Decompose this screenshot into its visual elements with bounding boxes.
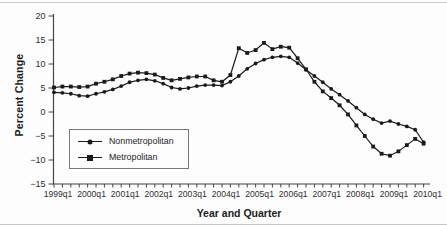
legend-label: Metropolitan [109, 152, 157, 162]
x-tick-label: 2010q1 [413, 189, 442, 199]
data-point-metropolitan [338, 103, 342, 107]
data-point-metropolitan [111, 77, 115, 81]
data-point-nonmetropolitan [145, 77, 149, 81]
data-point-nonmetropolitan [405, 125, 409, 129]
x-tick-label: 2003q1 [178, 189, 207, 199]
data-point-nonmetropolitan [388, 119, 392, 123]
data-point-metropolitan [128, 72, 132, 76]
data-point-nonmetropolitan [371, 117, 375, 121]
data-point-nonmetropolitan [296, 61, 300, 65]
x-tick-label: 1999q1 [44, 189, 73, 199]
circle-marker-icon [88, 139, 93, 144]
data-point-metropolitan [321, 89, 325, 93]
data-point-metropolitan [313, 80, 317, 84]
data-point-metropolitan [304, 67, 308, 71]
line-chart-figure: 20151050−5−10−151999q12000q12001q12002q1… [0, 0, 447, 226]
data-point-metropolitan [346, 113, 350, 117]
y-axis-title: Percent Change [13, 45, 25, 145]
legend-label: Nonmetropolitan [109, 136, 174, 146]
data-point-metropolitan [195, 75, 199, 79]
data-point-metropolitan [170, 78, 174, 82]
data-point-metropolitan [245, 51, 249, 55]
data-point-metropolitan [363, 134, 367, 138]
data-point-nonmetropolitan [61, 91, 65, 95]
data-point-metropolitan [203, 75, 207, 79]
data-point-nonmetropolitan [229, 80, 233, 84]
data-point-metropolitan [119, 74, 123, 78]
data-point-metropolitan [86, 85, 90, 89]
y-tick-label: −15 [30, 179, 45, 189]
data-point-nonmetropolitan [77, 94, 81, 98]
data-point-metropolitan [355, 124, 359, 128]
data-point-nonmetropolitan [220, 84, 224, 88]
data-point-nonmetropolitan [363, 113, 367, 117]
data-point-nonmetropolitan [195, 84, 199, 88]
data-point-metropolitan [178, 77, 182, 81]
data-point-metropolitan [229, 73, 233, 77]
data-point-nonmetropolitan [103, 90, 107, 94]
data-point-nonmetropolitan [338, 93, 342, 97]
data-point-nonmetropolitan [254, 62, 258, 66]
legend-item-metropolitan: Metropolitan [78, 151, 188, 164]
data-point-nonmetropolitan [170, 86, 174, 90]
data-point-metropolitan [422, 142, 426, 146]
data-point-nonmetropolitan [128, 80, 132, 84]
data-point-metropolitan [212, 78, 216, 82]
data-point-metropolitan [397, 149, 401, 153]
data-point-metropolitan [237, 46, 241, 50]
data-point-nonmetropolitan [287, 55, 291, 59]
data-point-metropolitan [271, 47, 275, 51]
data-point-nonmetropolitan [69, 92, 73, 96]
data-point-nonmetropolitan [346, 99, 350, 103]
data-point-nonmetropolitan [355, 106, 359, 110]
legend-item-nonmetropolitan: Nonmetropolitan [78, 135, 188, 148]
data-point-metropolitan [254, 48, 258, 52]
x-tick-label: 2001q1 [111, 189, 140, 199]
data-point-metropolitan [52, 86, 56, 90]
data-point-metropolitan [329, 96, 333, 100]
data-point-nonmetropolitan [262, 58, 266, 62]
data-point-metropolitan [69, 85, 73, 89]
data-point-metropolitan [296, 56, 300, 60]
data-point-nonmetropolitan [178, 87, 182, 91]
data-point-metropolitan [153, 73, 157, 77]
data-point-nonmetropolitan [86, 94, 90, 98]
data-point-nonmetropolitan [413, 128, 417, 132]
data-point-metropolitan [103, 80, 107, 84]
data-point-metropolitan [405, 143, 409, 147]
data-point-nonmetropolitan [321, 80, 325, 84]
data-point-nonmetropolitan [245, 67, 249, 71]
data-point-metropolitan [279, 45, 283, 49]
data-point-nonmetropolitan [136, 78, 140, 82]
metropolitan-line-sample [78, 157, 102, 158]
data-point-nonmetropolitan [94, 92, 98, 96]
data-point-nonmetropolitan [203, 83, 207, 87]
x-tick-label: 2005q1 [245, 189, 274, 199]
data-point-nonmetropolitan [237, 74, 241, 78]
data-point-nonmetropolitan [380, 121, 384, 125]
x-tick-label: 2004q1 [212, 189, 241, 199]
y-tick-label: 15 [35, 35, 45, 45]
data-point-nonmetropolitan [187, 86, 191, 90]
data-point-nonmetropolitan [397, 122, 401, 126]
data-point-nonmetropolitan [119, 84, 123, 88]
x-tick-label: 2007q1 [312, 189, 341, 199]
data-point-nonmetropolitan [212, 83, 216, 87]
y-tick-label: −5 [35, 131, 45, 141]
x-tick-label: 2002q1 [144, 189, 173, 199]
data-point-metropolitan [187, 76, 191, 80]
data-point-metropolitan [77, 85, 81, 89]
data-point-metropolitan [388, 154, 392, 158]
data-point-metropolitan [287, 46, 291, 50]
x-tick-label: 2008q1 [346, 189, 375, 199]
data-point-metropolitan [413, 137, 417, 141]
x-tick-label: 2009q1 [380, 189, 409, 199]
nonmetropolitan-line-sample [78, 141, 102, 142]
data-point-metropolitan [380, 152, 384, 156]
x-tick-label: 2006q1 [279, 189, 308, 199]
y-tick-label: 20 [35, 11, 45, 21]
data-point-nonmetropolitan [52, 90, 56, 94]
data-point-nonmetropolitan [329, 87, 333, 91]
square-marker-icon [87, 155, 93, 161]
data-point-nonmetropolitan [161, 82, 165, 86]
